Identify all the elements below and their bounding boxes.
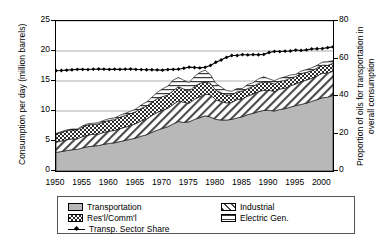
y-axis-left-label: Consumption per day (million barrels)	[17, 18, 27, 170]
x-axis-tick-label: 1995	[280, 177, 310, 187]
y-axis-right-tick-label: 60	[339, 52, 355, 62]
y-axis-right-label-line2: overall consumption	[366, 58, 376, 134]
legend-label: Industrial	[240, 202, 275, 212]
share-line-series	[56, 45, 333, 73]
legend-item-industrial[interactable]: Industrial	[221, 202, 275, 212]
y-axis-right-label-line1: Proportion of oils for transportation in	[355, 26, 365, 165]
chart-legend: Transportation Res'l/Comm'l Transp. Sect…	[57, 196, 355, 234]
legend-swatch-horizontal-lines	[221, 214, 236, 222]
legend-swatch-diagonal-hatch	[221, 203, 236, 211]
stacked-area-svg	[56, 21, 333, 171]
x-axis-tick-label: 1985	[226, 177, 256, 187]
legend-item-resl-comml[interactable]: Res'l/Comm'l	[68, 213, 137, 223]
y-axis-left-tick-mark	[51, 50, 55, 51]
area-series-group	[56, 61, 333, 171]
y-axis-left-tick-label: 10	[28, 104, 50, 114]
legend-label: Res'l/Comm'l	[87, 213, 137, 223]
x-axis-tick-label: 1960	[93, 177, 123, 187]
chart-figure: Consumption per day (million barrels) Pr…	[0, 0, 392, 242]
x-axis-tick-label: 1980	[200, 177, 230, 187]
legend-swatch-checker	[68, 214, 83, 222]
legend-swatch-solid-gray	[68, 203, 83, 211]
x-axis-tick-label: 1990	[253, 177, 283, 187]
x-axis-tick-label: 1970	[147, 177, 177, 187]
x-axis-tick-label: 1965	[120, 177, 150, 187]
y-axis-left-tick-mark	[51, 140, 55, 141]
y-axis-right-tick-mark	[334, 58, 338, 59]
x-axis-tick-label: 1955	[67, 177, 97, 187]
y-axis-right-tick-label: 80	[339, 14, 355, 24]
y-axis-left-tick-label: 0	[28, 164, 50, 174]
legend-item-transportation[interactable]: Transportation	[68, 202, 142, 212]
y-axis-right-tick-label: 20	[339, 127, 355, 137]
legend-swatch-line-diamond	[68, 225, 85, 233]
y-axis-left-tick-mark	[51, 170, 55, 171]
legend-item-transp-sector-share[interactable]: Transp. Sector Share	[68, 224, 169, 234]
x-axis-tick-label: 2000	[306, 177, 336, 187]
y-axis-left-tick-label: 25	[28, 14, 50, 24]
legend-item-electric-gen[interactable]: Electric Gen.	[221, 213, 289, 223]
y-axis-left-tick-label: 20	[28, 44, 50, 54]
legend-label: Transp. Sector Share	[89, 224, 169, 234]
y-axis-right-tick-label: 0	[339, 164, 355, 174]
y-axis-left-tick-label: 15	[28, 74, 50, 84]
y-axis-left-tick-mark	[51, 80, 55, 81]
y-axis-right-tick-label: 40	[339, 89, 355, 99]
legend-label: Transportation	[87, 202, 142, 212]
y-axis-right-tick-mark	[334, 170, 338, 171]
y-axis-left-tick-mark	[51, 110, 55, 111]
legend-label: Electric Gen.	[240, 213, 289, 223]
y-axis-right-tick-mark	[334, 133, 338, 134]
x-axis-tick-label: 1950	[40, 177, 70, 187]
y-axis-right-label: Proportion of oils for transportation in…	[355, 12, 377, 180]
y-axis-right-tick-mark	[334, 20, 338, 21]
y-axis-left-tick-label: 5	[28, 134, 50, 144]
y-axis-left-tick-mark	[51, 20, 55, 21]
plot-area	[55, 20, 334, 172]
x-axis-tick-label: 1975	[173, 177, 203, 187]
y-axis-right-tick-mark	[334, 95, 338, 96]
